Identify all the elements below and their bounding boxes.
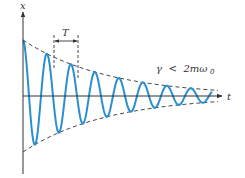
oscillation-curve bbox=[23, 40, 212, 145]
period-label: T bbox=[62, 27, 70, 38]
y-axis-label: x bbox=[20, 0, 26, 11]
t-axis-label: t bbox=[227, 91, 232, 102]
damped-oscillation-diagram: x t T γ < 2mω 0 bbox=[0, 0, 245, 178]
damping-condition: γ < 2mω 0 bbox=[156, 63, 215, 76]
lower-envelope bbox=[23, 102, 218, 152]
